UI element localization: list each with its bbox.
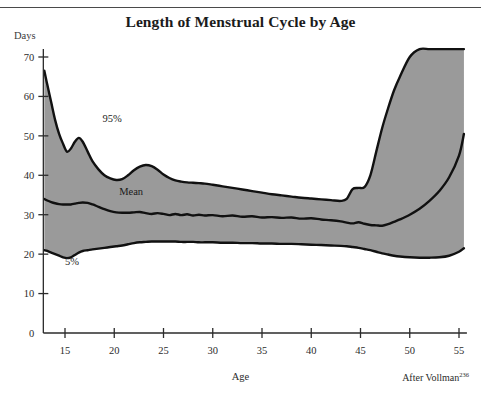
y-tick-label: 0	[29, 328, 34, 339]
y-tick-label: 60	[24, 91, 35, 102]
x-tick-label: 55	[454, 345, 465, 356]
x-tick-label: 30	[208, 345, 219, 356]
annotation-95-percent: 95%	[102, 113, 122, 124]
x-tick-label: 35	[257, 345, 268, 356]
band-fill-group	[44, 49, 464, 259]
x-tick-label: 15	[60, 345, 71, 356]
source-prefix: After Vollman	[402, 372, 459, 383]
annotation-5-percent: 5%	[65, 256, 79, 267]
source-attribution: After Vollman236	[402, 371, 469, 383]
source-citation-number: 236	[459, 371, 469, 378]
y-tick-label: 40	[24, 170, 35, 181]
annotation-mean: Mean	[119, 186, 144, 197]
y-tick-label: 10	[24, 288, 35, 299]
x-tick-label: 40	[306, 345, 317, 356]
chart-page: Length of Menstrual Cycle by Age Days 01…	[0, 0, 481, 402]
y-tick-label: 20	[24, 249, 35, 260]
x-tick-label: 25	[158, 345, 169, 356]
chart-canvas: 010203040506070152025303540455055 95%Mea…	[0, 0, 481, 402]
x-tick-label: 20	[109, 345, 120, 356]
y-tick-label: 30	[24, 210, 35, 221]
y-tick-label: 50	[24, 131, 35, 142]
band-area-95-5	[44, 49, 464, 259]
x-tick-label: 45	[355, 345, 366, 356]
x-tick-label: 50	[405, 345, 416, 356]
y-tick-label: 70	[24, 52, 35, 63]
